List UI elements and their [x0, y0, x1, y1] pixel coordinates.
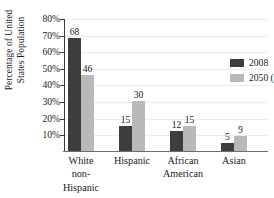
- x-label-white-non-hispanic-line-1: White: [54, 154, 108, 167]
- y-tick-label-80: 80%: [27, 14, 60, 24]
- y-axis-tick-labels: 80% 70% 60% 50% 40% 30% 20% 10%: [27, 14, 60, 153]
- bar-hispanic-2008[interactable]: [119, 126, 132, 151]
- x-label-african-american-line-1: African: [156, 154, 210, 167]
- legend-label-2008: 2008: [249, 58, 268, 68]
- y-tick-label-40: 40%: [27, 80, 60, 90]
- bar-african-american-2050[interactable]: [183, 126, 196, 151]
- bar-white-non-hispanic-2008[interactable]: [68, 38, 81, 151]
- x-label-african-american: African American: [156, 154, 210, 181]
- bar-value-white-non-hispanic-2008: 68: [64, 27, 85, 37]
- legend-label-2050: 2050 (projected): [249, 73, 274, 83]
- bar-asian-2050[interactable]: [234, 136, 247, 151]
- x-label-white-non-hispanic: White non- Hispanic: [54, 154, 108, 194]
- y-axis-title-line-1: Percentage of United: [4, 0, 16, 120]
- bar-chart: Percentage of United States Population 8…: [0, 0, 274, 198]
- bar-value-asian-2050: 9: [230, 125, 251, 135]
- bar-african-american-2008[interactable]: [170, 131, 183, 151]
- x-label-african-american-line-2: American: [156, 167, 210, 180]
- legend-item-2050[interactable]: 2050 (projected): [230, 72, 274, 84]
- x-label-asian-line-1: Asian: [207, 154, 261, 167]
- legend-swatch-2008: [230, 59, 244, 67]
- y-tick-label-30: 30%: [27, 97, 60, 107]
- legend-item-2008[interactable]: 2008: [230, 57, 274, 69]
- legend-swatch-2050: [230, 74, 244, 82]
- bar-value-african-american-2050: 15: [179, 115, 200, 125]
- plot-area: 68 46 15 30 12 15 5 9 2008: [64, 19, 268, 152]
- bar-value-white-non-hispanic-2050: 46: [77, 64, 98, 74]
- bar-value-hispanic-2050: 30: [128, 90, 149, 100]
- bar-white-non-hispanic-2050[interactable]: [81, 75, 94, 152]
- x-axis-category-labels: White non- Hispanic Hispanic African Ame…: [64, 154, 268, 198]
- x-label-white-non-hispanic-line-2: non-: [54, 167, 108, 180]
- x-label-white-non-hispanic-line-3: Hispanic: [54, 181, 108, 194]
- y-tick-label-20: 20%: [27, 114, 60, 124]
- y-tick-label-10: 10%: [27, 130, 60, 140]
- y-tick-label-60: 60%: [27, 47, 60, 57]
- y-tick-label-70: 70%: [27, 31, 60, 41]
- y-axis-title-line-2: States Population: [16, 0, 28, 120]
- x-label-hispanic: Hispanic: [105, 154, 159, 167]
- bar-hispanic-2050[interactable]: [132, 101, 145, 151]
- x-label-asian: Asian: [207, 154, 261, 167]
- x-label-hispanic-line-1: Hispanic: [105, 154, 159, 167]
- legend: 2008 2050 (projected): [230, 57, 274, 87]
- bar-asian-2008[interactable]: [221, 143, 234, 151]
- y-tick-label-50: 50%: [27, 64, 60, 74]
